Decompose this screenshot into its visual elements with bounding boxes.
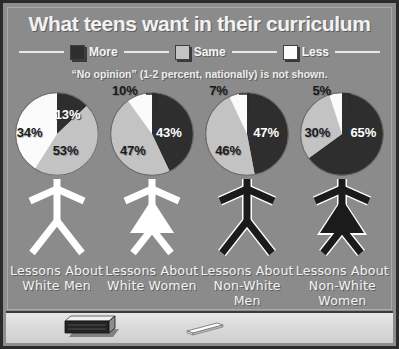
chalkboard-surface: What teens want in their curriculum More… <box>7 7 392 310</box>
pie-label-same-2: 47% <box>120 143 146 158</box>
legend-rule-left <box>19 51 64 53</box>
figure-wrap-2 <box>104 177 199 262</box>
figure-wrap-3 <box>200 177 295 262</box>
caption-line: Women <box>295 293 390 308</box>
stick-figure-man-black-icon <box>212 177 282 257</box>
legend-item-less[interactable]: Less <box>283 45 329 60</box>
legend-rule-mid1 <box>124 51 169 53</box>
column-nonwhite-women: 65% 30% 5% <box>295 85 390 308</box>
pie-label-less-4: 5% <box>312 83 331 98</box>
pie-wrap-1: 13% 53% 34% <box>9 85 104 177</box>
pie-label-less-2: 10% <box>112 83 138 98</box>
chalkboard-poster: What teens want in their curriculum More… <box>0 0 399 349</box>
caption-white-women: Lessons About White Women <box>104 263 199 293</box>
legend-label-same: Same <box>194 45 226 59</box>
pie-label-same-3: 46% <box>215 143 241 158</box>
caption-line: Lessons About <box>295 263 390 278</box>
figure-wrap-1 <box>9 177 104 262</box>
caption-line: White Women <box>104 278 199 293</box>
leader-line-less-2 <box>146 91 176 115</box>
caption-line: Non-White <box>200 278 295 293</box>
chart-columns: 13% 53% 34% <box>9 85 390 308</box>
caption-line: Lessons About <box>9 263 104 278</box>
pie-label-more-3: 47% <box>253 125 279 140</box>
subtitle-note: “No opinion” (1-2 percent, nationally) i… <box>7 68 392 80</box>
column-white-men: 13% 53% 34% <box>9 85 104 308</box>
pie-label-more-4: 65% <box>350 125 376 140</box>
caption-nonwhite-men: Lessons About Non-White Men <box>200 263 295 308</box>
caption-line: Lessons About <box>200 263 295 278</box>
chalk-stick-icon[interactable] <box>184 321 226 337</box>
leader-line-less-4 <box>342 91 372 113</box>
caption-line: Non-White <box>295 278 390 293</box>
legend-item-same[interactable]: Same <box>175 45 226 60</box>
pie-wrap-3: 47% 46% 7% <box>200 85 295 177</box>
legend-label-more: More <box>89 45 118 59</box>
caption-line: Lessons About <box>104 263 199 278</box>
legend-swatch-more-icon <box>70 45 85 60</box>
pie-label-more-1: 13% <box>55 107 81 122</box>
legend-rule-right <box>335 51 380 53</box>
legend: More Same Less <box>13 42 386 62</box>
legend-swatch-same-icon <box>175 45 190 60</box>
legend-swatch-less-icon <box>283 45 298 60</box>
leader-line-less-3 <box>239 91 269 115</box>
caption-white-men: Lessons About White Men <box>9 263 104 293</box>
legend-item-more[interactable]: More <box>70 45 118 60</box>
legend-rule-mid2 <box>232 51 277 53</box>
column-white-women: 43% 47% 10% <box>104 85 199 308</box>
pie-wrap-2: 43% 47% 10% <box>104 85 199 177</box>
pie-label-more-2: 43% <box>156 125 182 140</box>
pie-label-less-3: 7% <box>209 83 228 98</box>
legend-label-less: Less <box>302 45 329 59</box>
column-nonwhite-men: 47% 46% 7% <box>200 85 295 308</box>
caption-line: White Men <box>9 278 104 293</box>
caption-nonwhite-women: Lessons About Non-White Women <box>295 263 390 308</box>
chalk-tray <box>6 311 393 343</box>
pie-label-same-1: 53% <box>53 143 79 158</box>
pie-label-less-1: 34% <box>17 125 43 140</box>
chalkboard-eraser-icon[interactable] <box>61 315 123 339</box>
stick-figure-man-white-icon <box>22 177 92 257</box>
pie-label-same-4: 30% <box>304 125 330 140</box>
caption-line: Men <box>200 293 295 308</box>
stick-figure-woman-white-icon <box>117 177 187 257</box>
page-title: What teens want in their curriculum <box>7 12 392 36</box>
stick-figure-woman-black-icon <box>307 177 377 257</box>
pie-wrap-4: 65% 30% 5% <box>295 85 390 177</box>
figure-wrap-4 <box>295 177 390 262</box>
